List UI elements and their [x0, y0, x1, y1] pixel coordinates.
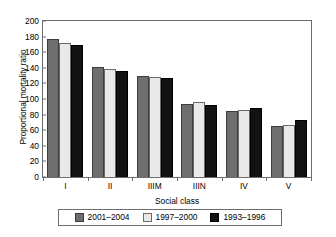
y-tick-mark	[43, 67, 46, 68]
legend-swatch	[210, 213, 219, 222]
bar	[116, 71, 128, 177]
legend-label: 1993–1996	[223, 213, 265, 221]
bar	[295, 120, 307, 177]
plot-area: 020406080100120140160180200IIIIIIMIIINIV…	[42, 20, 312, 178]
bar	[161, 78, 173, 177]
bar-group	[43, 21, 88, 177]
bar	[181, 104, 193, 177]
x-tick-label: IIIN	[193, 182, 206, 190]
bar-group	[222, 21, 267, 177]
y-tick-label: 0	[34, 173, 43, 181]
bar-group	[177, 21, 222, 177]
y-tick-label: 180	[25, 32, 43, 40]
y-tick-mark	[43, 52, 46, 53]
y-tick-label: 120	[25, 79, 43, 87]
bar	[238, 110, 250, 177]
y-tick-label: 160	[25, 48, 43, 56]
x-tick-mark	[311, 177, 312, 181]
x-tick-label: V	[286, 182, 292, 190]
legend-swatch	[143, 213, 152, 222]
x-tick-mark	[177, 177, 178, 181]
bar-group	[88, 21, 133, 177]
bar	[47, 39, 59, 177]
x-tick-label: IV	[240, 182, 248, 190]
y-tick-mark	[43, 83, 46, 84]
bar	[92, 67, 104, 177]
bars-layer	[43, 21, 311, 177]
bar	[250, 108, 262, 177]
y-tick-label: 60	[30, 126, 43, 134]
y-tick-label: 20	[30, 157, 43, 165]
y-tick-mark	[43, 99, 46, 100]
y-tick-label: 200	[25, 17, 43, 25]
legend-item: 1997–2000	[143, 213, 198, 222]
bar	[71, 45, 83, 177]
y-tick-label: 100	[25, 95, 43, 103]
y-tick-mark	[43, 161, 46, 162]
legend-swatch	[75, 213, 84, 222]
bar	[149, 77, 161, 177]
x-tick-mark	[266, 177, 267, 181]
legend-item: 2001–2004	[75, 213, 130, 222]
bar-group	[266, 21, 311, 177]
chart-figure: Proportional mortality ratio 02040608010…	[0, 0, 336, 237]
bar	[283, 125, 295, 177]
x-tick-mark	[43, 177, 44, 181]
y-tick-label: 80	[30, 110, 43, 118]
y-tick-mark	[43, 36, 46, 37]
y-tick-mark	[43, 114, 46, 115]
y-tick-label: 40	[30, 142, 43, 150]
x-tick-label: II	[108, 182, 113, 190]
x-tick-mark	[222, 177, 223, 181]
legend-item: 1993–1996	[210, 213, 265, 222]
bar	[59, 43, 71, 177]
bar	[226, 111, 238, 177]
x-axis-title: Social class	[42, 196, 312, 206]
bar	[205, 105, 217, 177]
bar	[137, 76, 149, 177]
bar-group	[132, 21, 177, 177]
legend-label: 2001–2004	[88, 213, 130, 221]
y-tick-mark	[43, 21, 46, 22]
bar	[271, 126, 283, 177]
y-tick-label: 140	[25, 64, 43, 72]
x-tick-label: IIIM	[148, 182, 162, 190]
x-tick-mark	[132, 177, 133, 181]
x-tick-label: I	[64, 182, 66, 190]
bar	[193, 102, 205, 177]
bar	[104, 69, 116, 177]
y-tick-mark	[43, 145, 46, 146]
chart-legend: 2001–20041997–20001993–1996	[58, 209, 282, 226]
y-tick-mark	[43, 130, 46, 131]
x-tick-mark	[88, 177, 89, 181]
legend-label: 1997–2000	[156, 213, 198, 221]
